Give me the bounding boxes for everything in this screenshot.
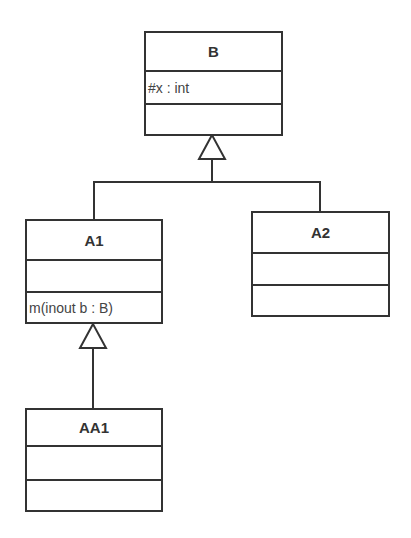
attribute: #x : int xyxy=(146,81,189,95)
operations-compartment: m(inout b : B) xyxy=(27,291,161,322)
operations-compartment xyxy=(27,479,161,510)
attributes-compartment xyxy=(27,259,161,291)
generalization-arrowhead-a1 xyxy=(80,324,106,348)
class-a1[interactable]: A1 m(inout b : B) xyxy=(25,219,163,324)
class-name: A2 xyxy=(311,224,330,241)
operations-compartment xyxy=(146,103,281,134)
attributes-compartment xyxy=(253,252,388,284)
class-name-compartment: A2 xyxy=(253,213,388,252)
class-name: AA1 xyxy=(79,419,109,436)
class-name-compartment: A1 xyxy=(27,221,161,259)
class-b[interactable]: B #x : int xyxy=(144,31,283,136)
attributes-compartment xyxy=(27,445,161,479)
class-aa1[interactable]: AA1 xyxy=(25,408,163,512)
class-name: A1 xyxy=(84,232,103,249)
class-name-compartment: AA1 xyxy=(27,410,161,445)
attributes-compartment: #x : int xyxy=(146,70,281,103)
class-name-compartment: B xyxy=(146,33,281,70)
class-name: B xyxy=(208,43,219,60)
class-a2[interactable]: A2 xyxy=(251,211,390,317)
operation: m(inout b : B) xyxy=(27,301,113,315)
operations-compartment xyxy=(253,284,388,315)
generalization-arrowhead-b xyxy=(199,135,225,159)
